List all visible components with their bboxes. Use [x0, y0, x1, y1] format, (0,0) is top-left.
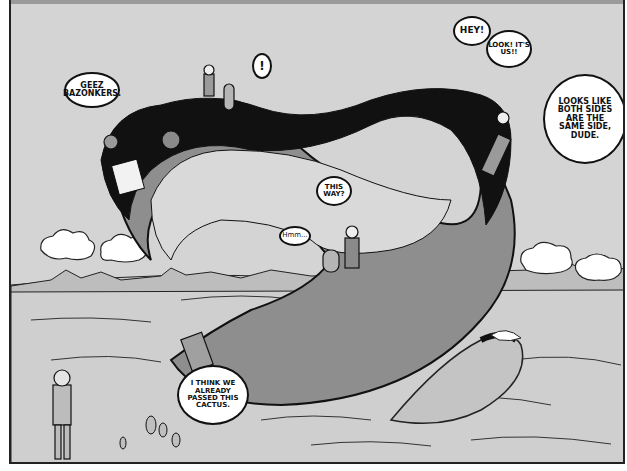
character-finn-top	[204, 74, 214, 96]
page-margin-bottom	[0, 464, 627, 471]
character-jake-middle	[323, 250, 339, 272]
speech-text-cactus: I THINK WE ALREADY PASSED THIS CACTUS.	[187, 380, 239, 409]
character-jake-top	[224, 84, 234, 110]
speech-bubble-exclaim: !	[252, 53, 272, 79]
speech-text-hey: HEY!	[460, 26, 484, 35]
character-finn-middle	[345, 238, 359, 268]
speech-bubble-geez: GEEZ BAZONKERS.	[64, 72, 120, 108]
speech-text-both-sides: LOOKS LIKE BOTH SIDES ARE THE SAME SIDE,…	[555, 98, 615, 140]
speech-bubble-cactus: I THINK WE ALREADY PASSED THIS CACTUS.	[177, 365, 249, 425]
speech-bubble-hey: HEY!	[453, 16, 491, 46]
speech-text-this-way: THIS WAY?	[318, 184, 350, 199]
character-upside-left-2	[162, 131, 180, 149]
speech-bubble-hmm: Hmm...	[279, 226, 311, 246]
speech-bubble-this-way: THIS WAY?	[316, 176, 352, 206]
speech-text-look: LOOK! IT'S US!!	[488, 42, 530, 57]
mobius-scene	[11, 0, 625, 464]
speech-bubble-look: LOOK! IT'S US!!	[486, 30, 532, 68]
speech-bubble-both-sides: LOOKS LIKE BOTH SIDES ARE THE SAME SIDE,…	[543, 74, 625, 164]
speech-text-hmm: Hmm...	[282, 232, 308, 239]
comic-panel: GEEZ BAZONKERS. ! HEY! LOOK! IT'S US!! L…	[9, 0, 625, 464]
character-upside-left-1	[104, 135, 118, 149]
character-bystander	[53, 385, 71, 425]
speech-text-exclaim: !	[259, 60, 264, 73]
speech-text-geez: GEEZ BAZONKERS.	[63, 82, 121, 99]
